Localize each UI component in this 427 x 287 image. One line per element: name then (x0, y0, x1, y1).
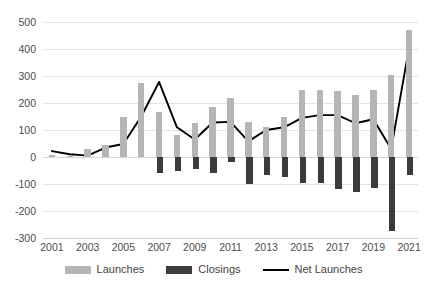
y-axis-tick-label: 200 (0, 98, 36, 109)
y-axis-tick-label: -300 (0, 233, 36, 244)
bar-swatch-dark-icon (166, 266, 192, 274)
legend-item-launches: Launches (65, 264, 145, 275)
legend-label-launches: Launches (97, 264, 145, 275)
bar-closings-2013 (264, 157, 271, 175)
bar-launches-2020 (388, 75, 395, 157)
y-axis-tick-label: 400 (0, 44, 36, 55)
x-axis-tick-label: 2013 (255, 242, 278, 253)
bar-closings-2020 (389, 157, 396, 231)
x-axis-tick-label: 2011 (219, 242, 242, 253)
legend-label-closings: Closings (198, 264, 240, 275)
bar-launches-2006 (138, 83, 145, 157)
bar-launches-2018 (352, 95, 359, 157)
bar-launches-2005 (120, 117, 127, 158)
y-axis-tick-label: 0 (0, 152, 36, 163)
x-axis-tick-label: 2001 (40, 242, 63, 253)
legend-item-closings: Closings (166, 264, 240, 275)
x-axis-tick-label: 2003 (76, 242, 99, 253)
x-axis-tick-label: 2009 (183, 242, 206, 253)
bar-launches-2001 (49, 155, 56, 157)
bar-launches-2011 (227, 98, 234, 157)
bar-launches-2007 (156, 112, 163, 157)
legend-label-net-launches: Net Launches (295, 264, 363, 275)
y-axis-tick-label: -200 (0, 206, 36, 217)
bar-closings-2014 (282, 157, 289, 177)
bar-launches-2010 (209, 107, 216, 157)
bar-closings-2007 (157, 157, 164, 173)
bar-launches-2019 (370, 90, 377, 158)
bar-closings-2016 (318, 157, 325, 183)
y-axis-tick-label: 300 (0, 71, 36, 82)
y-axis-tick-label: -100 (0, 179, 36, 190)
bar-launches-2016 (317, 90, 324, 158)
bar-closings-2011 (228, 157, 235, 162)
bar-closings-2015 (300, 157, 307, 183)
line-swatch-icon (263, 269, 289, 271)
bar-launches-2013 (263, 127, 270, 157)
bar-launches-2002 (67, 156, 74, 157)
bar-launches-2012 (245, 122, 252, 157)
x-axis-tick-label: 2017 (326, 242, 349, 253)
bar-launches-2004 (102, 145, 109, 157)
bar-closings-2010 (210, 157, 217, 173)
plot-area (43, 22, 418, 238)
bar-swatch-light-icon (65, 266, 91, 274)
bar-closings-2008 (175, 157, 182, 171)
y-axis-tick-label: 500 (0, 17, 36, 28)
legend-item-net-launches: Net Launches (263, 264, 363, 275)
bar-closings-2018 (353, 157, 360, 192)
bar-closings-2021 (407, 157, 414, 175)
x-axis-tick-label: 2015 (290, 242, 313, 253)
x-axis-tick-label: 2021 (397, 242, 420, 253)
x-axis-tick-label: 2007 (147, 242, 170, 253)
x-axis-tick-label: 2005 (112, 242, 135, 253)
bar-closings-2009 (193, 157, 200, 169)
bar-launches-2015 (299, 90, 306, 158)
chart-container: 5004003002001000-100-200-300 20012003200… (0, 0, 427, 287)
x-axis-line (43, 238, 418, 239)
bar-closings-2019 (371, 157, 378, 188)
x-axis-tick-label: 2019 (362, 242, 385, 253)
bar-launches-2008 (174, 135, 181, 157)
y-axis-tick-label: 100 (0, 125, 36, 136)
bar-launches-2021 (406, 30, 413, 157)
bar-launches-2003 (84, 149, 91, 157)
bar-closings-2012 (246, 157, 253, 184)
chart-legend: Launches Closings Net Launches (0, 264, 427, 275)
bar-closings-2017 (335, 157, 342, 189)
bar-launches-2009 (192, 123, 199, 157)
bar-launches-2014 (281, 117, 288, 158)
bar-launches-2017 (334, 91, 341, 157)
